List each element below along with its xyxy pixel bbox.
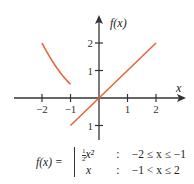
formula-lhs: f(x) = xyxy=(36,156,63,168)
y-axis-title: f(x) xyxy=(110,16,127,30)
x-ticks: −2−112 xyxy=(36,94,159,115)
formula-row-2: x : −1 < x ≤ 2 xyxy=(82,163,180,178)
formula-condition-1: −2 ≤ x ≤ −1 xyxy=(132,147,186,162)
formula-row-1: 12x² : −2 ≤ x ≤ −1 xyxy=(82,147,186,162)
x-axis-title: x xyxy=(175,81,182,95)
formula-condition-2: −1 < x ≤ 2 xyxy=(132,163,180,178)
piecewise-formula: f(x) = 12x² : −2 ≤ x ≤ −1 x : −1 < x ≤ 2 xyxy=(30,146,180,180)
formula-brace xyxy=(74,147,77,177)
series-linear xyxy=(71,43,157,126)
y-tick-label: 1 xyxy=(88,120,94,132)
x-tick-label: 2 xyxy=(153,103,159,115)
series-quadratic xyxy=(42,43,71,84)
y-tick-label: 2 xyxy=(88,37,94,49)
x-tick-label: −2 xyxy=(36,103,48,115)
y-tick-label: 1 xyxy=(88,65,94,77)
function-plot: −2−112 211 f(x) x xyxy=(0,0,194,146)
y-ticks: 211 xyxy=(88,37,104,132)
x-tick-label: −1 xyxy=(65,103,77,115)
x-tick-label: 1 xyxy=(125,103,131,115)
